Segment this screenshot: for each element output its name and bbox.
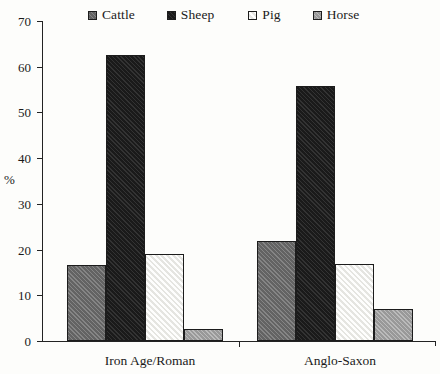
y-axis-tick: [37, 204, 42, 205]
legend-label-sheep: Sheep: [181, 8, 215, 22]
legend-item-sheep: Sheep: [167, 8, 215, 22]
bar-chart: Cattle Sheep Pig Horse % 010203040506070…: [0, 0, 440, 374]
y-axis-tick-label: 70: [0, 15, 31, 28]
y-axis-tick: [37, 112, 42, 113]
legend-swatch-cattle-icon: [88, 11, 97, 20]
bar-horse-iron-age-roman: [184, 329, 223, 341]
y-axis-tick: [37, 21, 42, 22]
legend-swatch-horse-icon: [313, 11, 322, 20]
y-axis-tick: [37, 67, 42, 68]
y-axis-tick-label: 40: [0, 152, 31, 165]
legend-swatch-pig-icon: [248, 11, 257, 20]
bar-pig-anglo-saxon: [335, 264, 374, 341]
legend-label-horse: Horse: [327, 8, 360, 22]
bar-horse-anglo-saxon: [374, 309, 413, 341]
y-axis-tick-label: 50: [0, 106, 31, 119]
bar-cattle-iron-age-roman: [67, 265, 106, 341]
x-axis-group-divider: [239, 341, 240, 347]
y-axis-title: %: [4, 172, 15, 188]
y-axis-tick: [37, 295, 42, 296]
bar-pig-iron-age-roman: [145, 254, 184, 341]
y-axis-tick-label: 30: [0, 197, 31, 210]
bar-sheep-anglo-saxon: [296, 86, 335, 341]
legend-item-cattle: Cattle: [88, 8, 135, 22]
y-axis-tick-label: 0: [0, 335, 31, 348]
y-axis-tick-label: 60: [0, 60, 31, 73]
y-axis-line: [42, 21, 43, 342]
legend-item-pig: Pig: [248, 8, 280, 22]
bar-cattle-anglo-saxon: [257, 241, 296, 341]
y-axis-tick: [37, 250, 42, 251]
x-axis-label-iron-age-roman: Iron Age/Roman: [105, 354, 195, 368]
x-axis-end-tick: [435, 341, 436, 346]
bar-sheep-iron-age-roman: [106, 55, 145, 341]
legend-label-pig: Pig: [262, 8, 280, 22]
legend-item-horse: Horse: [313, 8, 360, 22]
y-axis-tick-label: 10: [0, 289, 31, 302]
x-axis-label-anglo-saxon: Anglo-Saxon: [304, 354, 376, 368]
chart-legend: Cattle Sheep Pig Horse: [88, 5, 418, 25]
y-axis-tick: [37, 158, 42, 159]
legend-swatch-sheep-icon: [167, 11, 176, 20]
y-axis-tick-label: 20: [0, 243, 31, 256]
legend-label-cattle: Cattle: [102, 8, 135, 22]
